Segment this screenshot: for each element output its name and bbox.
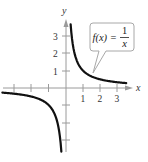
x-axis-label: x (135, 82, 141, 93)
y-axis-label: y (61, 5, 67, 16)
y-tick-label-1: 1 (53, 67, 58, 77)
x-tick-label-1: 1 (81, 94, 86, 104)
x-tick-label-3: 3 (115, 94, 120, 104)
callout-box (90, 23, 134, 73)
fraction-denominator: x (121, 38, 127, 49)
x-tick-label-2: 2 (98, 94, 103, 104)
y-axis: y 1 2 3 (53, 5, 70, 152)
x-axis: x 1 2 3 (3, 82, 141, 104)
chart-figure: y 1 2 3 x 1 2 3 f(x) = 1 x (0, 0, 148, 162)
function-name: f(x) = (93, 32, 117, 44)
y-tick-label-2: 2 (53, 49, 58, 59)
x-axis-arrow-icon (125, 86, 133, 91)
curve-left-branch (2, 93, 61, 152)
y-tick-label-3: 3 (53, 32, 58, 42)
y-axis-arrow-icon (64, 19, 69, 27)
fraction-numerator: 1 (122, 25, 127, 36)
function-label: f(x) = (93, 32, 117, 44)
function-callout: f(x) = 1 x (90, 23, 134, 73)
